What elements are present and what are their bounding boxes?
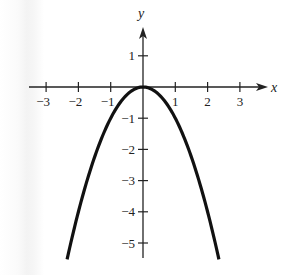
y-tick-label: −4 bbox=[121, 204, 135, 219]
x-tick-label: −1 bbox=[101, 94, 115, 109]
y-axis-label: y bbox=[136, 6, 145, 21]
graph-figure: −3−2−11231−1−2−3−4−5 x y bbox=[0, 0, 285, 275]
x-tick-label: 2 bbox=[204, 94, 211, 109]
parabola-plot: −3−2−11231−1−2−3−4−5 x y bbox=[0, 0, 285, 275]
y-tick-label: −2 bbox=[121, 142, 135, 157]
y-tick-label: −1 bbox=[121, 111, 135, 126]
x-axis-label: x bbox=[270, 80, 278, 95]
y-tick-label: −5 bbox=[121, 236, 135, 251]
x-tick-label: −2 bbox=[68, 94, 82, 109]
axes bbox=[29, 27, 268, 258]
x-tick-label: 3 bbox=[237, 94, 244, 109]
y-tick-label: −3 bbox=[121, 173, 135, 188]
x-tick-label: −3 bbox=[36, 94, 50, 109]
y-tick-label: 1 bbox=[129, 48, 136, 63]
x-tick-label: 1 bbox=[172, 94, 179, 109]
